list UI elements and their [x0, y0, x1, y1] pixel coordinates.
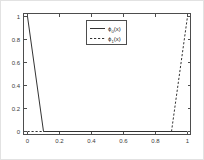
y-tick-label: 1: [17, 14, 21, 20]
x-tick-labels: 0 0.2 0.4 0.6 0.8 1: [26, 138, 190, 144]
y-tick-label: 0.8: [12, 37, 21, 43]
x-tick-label: 0: [26, 138, 30, 144]
y-tick-label: 0.6: [12, 60, 21, 66]
legend-label-phi1-tail: (x): [114, 36, 121, 42]
chart-figure: 0 0.2 0.4 0.6 0.8 1 0 0.2 0.4 0.6 0.8 1 …: [0, 0, 204, 160]
x-tick-label: 0.8: [151, 138, 160, 144]
x-tick-label: 0.6: [119, 138, 128, 144]
y-tick-label: 0: [17, 129, 21, 135]
x-tick-label: 1: [186, 138, 190, 144]
y-tick-label: 0.2: [12, 106, 21, 112]
x-tick-label: 0.4: [87, 138, 96, 144]
plot-canvas: 0 0.2 0.4 0.6 0.8 1 0 0.2 0.4 0.6 0.8 1 …: [1, 1, 204, 160]
chart-legend[interactable]: ϕ0(x) ϕ1(x): [87, 21, 127, 45]
y-tick-labels: 0 0.2 0.4 0.6 0.8 1: [12, 14, 21, 135]
x-tick-label: 0.2: [55, 138, 64, 144]
y-tick-label: 0.4: [12, 83, 21, 89]
legend-label-phi0-tail: (x): [114, 26, 121, 32]
